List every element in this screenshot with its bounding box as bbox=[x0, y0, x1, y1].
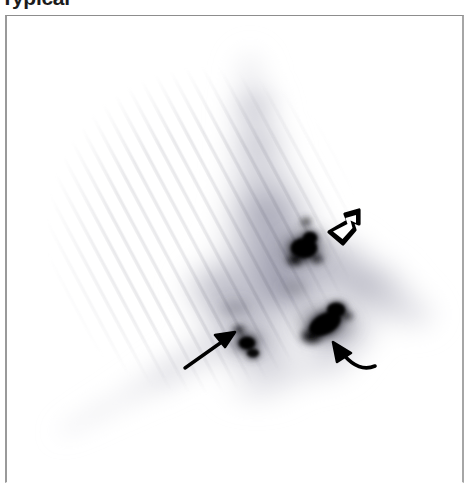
figure-frame bbox=[5, 15, 464, 483]
scintigraphy-scan-image bbox=[7, 16, 462, 482]
scan-graphic bbox=[7, 16, 462, 482]
figure-caption-clip: Typical bbox=[0, 0, 474, 12]
figure-caption: Typical bbox=[1, 0, 70, 10]
